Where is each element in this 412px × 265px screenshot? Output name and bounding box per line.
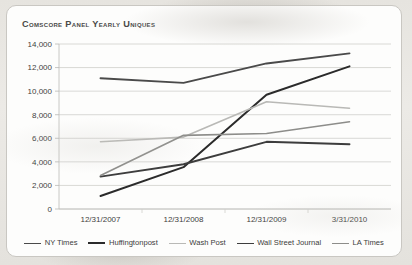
x-axis-tick-label: 12/31/2007: [80, 215, 121, 224]
series-line-huffingtonpost: [101, 66, 350, 196]
data-series-lines: [101, 53, 350, 196]
legend-label-la-times: LA Times: [353, 239, 384, 247]
legend-item-ny-times[interactable]: NY Times: [24, 239, 77, 247]
x-axis-tick-label: 3/31/2010: [332, 215, 368, 224]
x-axis-tick-label: 12/31/2008: [163, 215, 204, 224]
legend-swatch-huffingtonpost: [88, 242, 105, 244]
x-axis-tick-label: 12/31/2009: [246, 215, 287, 224]
legend-swatch-wash-post: [169, 243, 186, 244]
legend-label-huffingtonpost: Huffingtonpost: [109, 239, 158, 247]
y-axis-tick-label: 6,000: [32, 134, 53, 143]
y-axis-tick-label: 10,000: [28, 87, 53, 96]
legend-item-wash-post[interactable]: Wash Post: [169, 239, 226, 247]
legend-item-huffingtonpost[interactable]: Huffingtonpost: [88, 239, 157, 247]
x-axis-tick-labels: 12/31/200712/31/200812/31/20093/31/2010: [80, 215, 367, 224]
legend-label-wash-post: Wash Post: [189, 239, 225, 247]
legend-label-wall-street-journal: Wall Street Journal: [257, 239, 321, 247]
y-axis-tick-label: 4,000: [32, 158, 53, 167]
legend-swatch-wall-street-journal: [237, 243, 254, 244]
chart-legend: NY TimesHuffingtonpostWash PostWall Stre…: [7, 239, 401, 247]
legend-item-la-times[interactable]: LA Times: [332, 239, 384, 247]
legend-swatch-la-times: [332, 243, 349, 244]
y-axis-tick-label: 14,000: [28, 40, 53, 49]
legend-item-wall-street-journal[interactable]: Wall Street Journal: [237, 239, 321, 247]
line-chart: 02,0004,0006,0008,00010,00012,00014,000 …: [7, 6, 402, 257]
series-line-wall-street-journal: [101, 142, 350, 177]
chart-plot-area: 02,0004,0006,0008,00010,00012,00014,000 …: [7, 6, 402, 257]
legend-label-ny-times: NY Times: [45, 239, 78, 247]
y-axis-tick-label: 8,000: [32, 111, 53, 120]
series-line-wash-post: [101, 102, 350, 142]
y-axis-tick-label: 0: [48, 205, 53, 214]
legend-swatch-ny-times: [24, 243, 41, 244]
y-axis-tick-label: 2,000: [32, 181, 53, 190]
y-axis-tick-label: 12,000: [28, 63, 53, 72]
y-axis-tick-labels: 02,0004,0006,0008,00010,00012,00014,000: [28, 40, 53, 214]
y-axis-tick-marks: [55, 44, 59, 209]
chart-card: Comscore Panel Yearly Uniques 02,0004,00…: [6, 5, 402, 257]
